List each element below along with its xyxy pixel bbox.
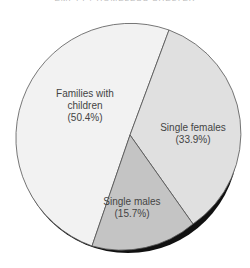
label-single-males: Single males (15.7%) [100,196,164,220]
label-families: Families with children (50.4%) [40,88,130,124]
label-families-pct: (50.4%) [40,112,130,124]
label-families-text-2: children [40,100,130,112]
label-single-females: Single females (33.9%) [148,122,238,146]
label-males-pct: (15.7%) [100,208,164,220]
label-males-text: Single males [100,196,164,208]
label-females-pct: (33.9%) [148,134,238,146]
label-females-text: Single females [148,122,238,134]
label-families-text-1: Families with [40,88,130,100]
